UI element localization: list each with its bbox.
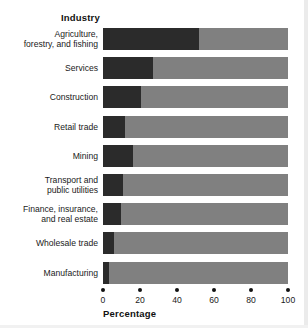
bar-segment-primary	[103, 28, 199, 50]
category-label: Transport andpublic utilities	[0, 175, 98, 196]
bar-row	[103, 57, 288, 79]
bar-segment-primary	[103, 174, 123, 196]
x-axis-tick-marker	[249, 288, 253, 292]
bar-row	[103, 203, 288, 225]
bar-segment-primary	[103, 116, 125, 138]
x-axis-tick-label: 100	[275, 295, 301, 305]
category-label: Manufacturing	[0, 268, 98, 279]
category-label-line: Construction	[0, 92, 98, 103]
category-label: Construction	[0, 92, 98, 103]
x-axis-tick-marker	[138, 288, 142, 292]
bar-segment-primary	[103, 232, 114, 254]
x-axis-tick-label: 80	[238, 295, 264, 305]
bar-row	[103, 145, 288, 167]
category-label-line: and real estate	[0, 214, 98, 225]
bar-segment-remainder	[103, 57, 288, 79]
plot-area	[103, 28, 288, 288]
category-label: Services	[0, 63, 98, 74]
bar-segment-primary	[103, 203, 121, 225]
category-label: Agriculture,forestry, and fishing	[0, 29, 98, 50]
bar-segment-primary	[103, 262, 109, 284]
category-label-line: Manufacturing	[0, 268, 98, 279]
x-axis-tick: 80	[238, 288, 264, 305]
bar-segment-remainder	[103, 262, 288, 284]
bar-segment-remainder	[103, 86, 288, 108]
bar-segment-remainder	[103, 28, 288, 50]
category-label-line: Services	[0, 63, 98, 74]
category-label-line: public utilities	[0, 185, 98, 196]
category-label: Finance, insurance,and real estate	[0, 204, 98, 225]
bar-row	[103, 262, 288, 284]
x-axis-tick-marker	[101, 288, 105, 292]
category-label-line: Retail trade	[0, 122, 98, 133]
x-axis-tick-marker	[175, 288, 179, 292]
bar-segment-primary	[103, 86, 141, 108]
bar-row	[103, 86, 288, 108]
bar-segment-remainder	[103, 232, 288, 254]
bar-row	[103, 28, 288, 50]
category-label-line: forestry, and fishing	[0, 39, 98, 50]
y-axis-title: Industry	[0, 12, 100, 23]
bar-segment-remainder	[103, 116, 288, 138]
bar-segment-primary	[103, 145, 133, 167]
bar-segment-remainder	[103, 174, 288, 196]
bar-row	[103, 174, 288, 196]
category-label-line: Finance, insurance,	[0, 204, 98, 215]
category-label-line: Wholesale trade	[0, 238, 98, 249]
x-axis-tick-marker	[212, 288, 216, 292]
x-axis-tick-marker	[286, 288, 290, 292]
x-axis-tick-label: 60	[201, 295, 227, 305]
page-edge-decoration	[304, 0, 308, 328]
x-axis-tick-label: 20	[127, 295, 153, 305]
x-axis-tick-label: 40	[164, 295, 190, 305]
x-axis-tick-label: 0	[90, 295, 116, 305]
category-label-line: Mining	[0, 151, 98, 162]
bar-segment-remainder	[103, 145, 288, 167]
x-axis-tick: 60	[201, 288, 227, 305]
bar-row	[103, 116, 288, 138]
bar-row	[103, 232, 288, 254]
bar-segment-primary	[103, 57, 153, 79]
x-axis-tick: 0	[90, 288, 116, 305]
category-label: Wholesale trade	[0, 238, 98, 249]
x-axis-title: Percentage	[103, 308, 156, 319]
x-axis-tick: 20	[127, 288, 153, 305]
category-label: Mining	[0, 151, 98, 162]
x-axis-tick: 100	[275, 288, 301, 305]
category-label: Retail trade	[0, 122, 98, 133]
category-label-line: Transport and	[0, 175, 98, 186]
bar-segment-remainder	[103, 203, 288, 225]
category-label-line: Agriculture,	[0, 29, 98, 40]
x-axis-tick: 40	[164, 288, 190, 305]
stacked-bar-chart: Industry 020406080100 Percentage Agricul…	[0, 0, 308, 328]
